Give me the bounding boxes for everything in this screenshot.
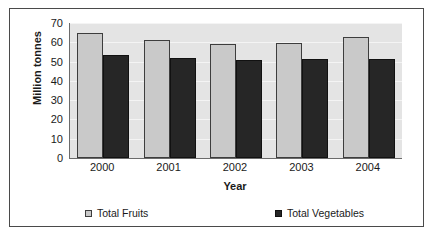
x-tick-label: 2004 [335,161,401,173]
bar-total-vegetables [236,60,262,158]
x-tick-label: 2003 [268,161,334,173]
bar-total-vegetables [103,55,129,158]
legend-label: Total Vegetables [287,207,364,219]
chart-legend: Total FruitsTotal Vegetables [30,206,405,222]
legend-entry: Total Vegetables [275,206,364,220]
y-tick-label: 20 [37,114,63,124]
bar-group [336,23,402,158]
bar-total-fruits [77,33,103,158]
bar-group [269,23,335,158]
y-tick-label: 10 [37,134,63,144]
x-axis-tick-labels: 20002001200220032004 [69,161,401,177]
bars-container [70,23,402,158]
bar-group [136,23,202,158]
bar-chart-figure: Million tonnes 010203040506070 200020012… [9,8,424,227]
legend-entry: Total Fruits [85,206,148,220]
legend-label: Total Fruits [97,207,148,219]
bar-total-vegetables [302,59,328,158]
bar-group [70,23,136,158]
y-tick-label: 0 [37,153,63,163]
x-tick-label: 2001 [135,161,201,173]
legend-swatch-icon [85,210,92,217]
y-tick-label: 30 [37,95,63,105]
bar-total-fruits [343,37,369,159]
y-tick-label: 50 [37,57,63,67]
x-tick-label: 2000 [69,161,135,173]
bar-total-vegetables [369,59,395,158]
bar-total-fruits [210,44,236,158]
y-axis-tick-labels: 010203040506070 [37,23,63,158]
bar-total-vegetables [170,58,196,158]
bar-total-fruits [144,40,170,158]
x-axis-title: Year [69,180,401,192]
y-tick-label: 60 [37,37,63,47]
legend-swatch-icon [275,210,282,217]
y-tick-label: 70 [37,18,63,28]
y-tick-label: 40 [37,76,63,86]
x-tick-label: 2002 [202,161,268,173]
plot-area [69,23,402,159]
bar-group [203,23,269,158]
bar-total-fruits [276,43,302,158]
